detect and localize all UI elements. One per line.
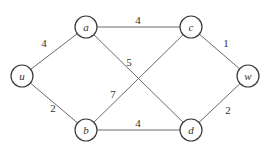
node-d: d	[180, 119, 202, 141]
node-u: u	[11, 65, 33, 87]
edge-weight-d-w: 2	[225, 104, 231, 116]
edge-u-a	[22, 27, 86, 76]
node-label: a	[83, 21, 89, 33]
edge-weight-a-d: 5	[126, 56, 132, 68]
edge-weight-u-b: 2	[50, 102, 56, 114]
edge-weight-u-a: 4	[41, 37, 47, 49]
node-c: c	[180, 16, 202, 38]
node-label: u	[19, 70, 25, 82]
edge-weight-b-c: 7	[110, 88, 116, 100]
node-label: w	[244, 70, 252, 82]
edge-weight-c-w: 1	[223, 37, 229, 49]
edge-weight-b-d: 4	[135, 117, 141, 129]
edge-weight-a-c: 4	[135, 14, 141, 26]
weighted-graph-diagram: 42457412 uabcdw	[0, 0, 271, 151]
node-label: d	[188, 124, 194, 136]
edge-d-w	[191, 76, 248, 130]
node-b: b	[75, 119, 97, 141]
node-label: c	[189, 21, 194, 33]
node-a: a	[75, 16, 97, 38]
node-w: w	[237, 65, 259, 87]
node-label: b	[83, 124, 89, 136]
